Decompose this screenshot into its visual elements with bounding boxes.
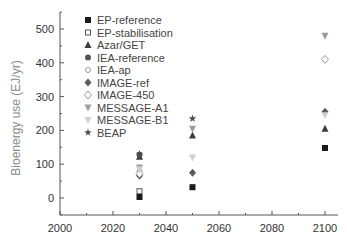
legend-marker-icon bbox=[86, 68, 91, 73]
legend-label: IEA-reference bbox=[97, 52, 165, 64]
y-tick-label: 400 bbox=[36, 57, 54, 69]
legend-label: MESSAGE-B1 bbox=[97, 114, 169, 126]
legend-label: Azar/GET bbox=[97, 39, 146, 51]
legend-label: IMAGE-ref bbox=[97, 77, 150, 89]
data-point-message-b1 bbox=[189, 154, 196, 161]
x-tick-label: 2080 bbox=[260, 222, 284, 234]
legend-item: IMAGE-ref bbox=[85, 77, 150, 89]
data-point-image-ref bbox=[189, 169, 196, 177]
x-tick-label: 2000 bbox=[48, 222, 72, 234]
data-point-azar-get bbox=[322, 125, 329, 132]
y-tick-label: 300 bbox=[36, 91, 54, 103]
x-tick-label: 2100 bbox=[313, 222, 337, 234]
legend-item: BEAP bbox=[84, 127, 126, 139]
data-point-ep-stabilisation bbox=[137, 189, 142, 194]
legend-label: IMAGE-450 bbox=[97, 89, 154, 101]
legend-item: IMAGE-450 bbox=[85, 89, 155, 101]
data-point-beap bbox=[189, 115, 197, 122]
data-point-message-b1 bbox=[322, 112, 329, 119]
legend-marker-icon bbox=[85, 55, 91, 61]
tick-labels: 2000202020402060208021000100200300400500 bbox=[36, 23, 338, 234]
data-point-message-a1 bbox=[322, 33, 329, 40]
x-tick-label: 2060 bbox=[207, 222, 231, 234]
x-tick-label: 2020 bbox=[101, 222, 125, 234]
data-point-message-a1 bbox=[189, 126, 196, 133]
legend-marker-icon bbox=[85, 17, 91, 23]
legend-label: EP-reference bbox=[97, 14, 162, 26]
data-point-ep-reference bbox=[322, 145, 328, 151]
legend-marker-icon bbox=[85, 117, 92, 124]
legend-marker-icon bbox=[85, 105, 92, 112]
legend-marker-icon bbox=[86, 30, 91, 35]
legend-item: MESSAGE-B1 bbox=[85, 114, 169, 126]
legend-item: EP-stabilisation bbox=[86, 27, 173, 39]
y-axis-label: Bioenergy use (EJ/yr) bbox=[9, 60, 23, 175]
y-tick-label: 500 bbox=[36, 23, 54, 35]
legend-item: EP-reference bbox=[85, 14, 162, 26]
legend-item: IEA-reference bbox=[85, 52, 165, 64]
data-point-ep-reference bbox=[190, 184, 196, 190]
x-tick-label: 2040 bbox=[154, 222, 178, 234]
legend-label: EP-stabilisation bbox=[97, 27, 173, 39]
data-point-image-450 bbox=[322, 55, 329, 63]
y-tick-label: 200 bbox=[36, 124, 54, 136]
legend-marker-icon bbox=[85, 79, 92, 87]
legend-label: MESSAGE-A1 bbox=[97, 102, 169, 114]
data-point-ep-reference bbox=[137, 194, 143, 200]
legend: EP-referenceEP-stabilisationAzar/GETIEA-… bbox=[84, 14, 173, 139]
y-tick-label: 0 bbox=[48, 192, 54, 204]
y-tick-label: 100 bbox=[36, 158, 54, 170]
legend-item: Azar/GET bbox=[85, 39, 146, 51]
legend-label: BEAP bbox=[97, 127, 126, 139]
legend-marker-icon bbox=[85, 91, 92, 99]
legend-marker-icon bbox=[85, 41, 92, 48]
legend-label: IEA-ap bbox=[97, 64, 131, 76]
legend-item: MESSAGE-A1 bbox=[85, 102, 169, 114]
legend-marker-icon bbox=[84, 129, 92, 136]
bioenergy-scatter-chart: 2000202020402060208021000100200300400500… bbox=[0, 0, 347, 244]
legend-item: IEA-ap bbox=[86, 64, 131, 76]
